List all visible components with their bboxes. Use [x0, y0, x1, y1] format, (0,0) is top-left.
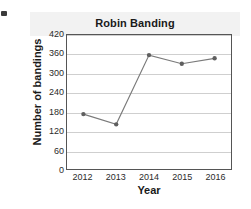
x-tick-label: 2012	[73, 172, 93, 182]
y-tick-label: 180	[49, 107, 64, 117]
x-tick-label: 2014	[139, 172, 159, 182]
y-tick-label: 0	[59, 165, 64, 175]
x-axis-title: Year	[66, 184, 232, 196]
scan-artifact-mark	[1, 11, 7, 16]
series-line-chart	[67, 35, 231, 169]
y-tick-label: 120	[49, 126, 64, 136]
plot-area	[66, 34, 232, 170]
chart-card: Robin Banding Number of bandings 0601201…	[16, 8, 240, 198]
x-tick-label: 2013	[106, 172, 126, 182]
y-tick-label: 360	[49, 48, 64, 58]
x-tick-label: 2015	[172, 172, 192, 182]
data-point-marker	[81, 112, 85, 116]
data-point-marker	[180, 62, 184, 66]
x-tick-label: 2016	[205, 172, 225, 182]
data-point-marker	[147, 53, 151, 57]
data-point-marker	[212, 56, 216, 60]
series-line	[83, 55, 214, 124]
y-axis-tick-labels: 060120180240300360420	[38, 34, 64, 170]
chart-title: Robin Banding	[30, 17, 240, 29]
y-tick-label: 60	[54, 146, 64, 156]
y-tick-label: 240	[49, 87, 64, 97]
data-point-marker	[114, 122, 118, 126]
y-tick-label: 300	[49, 68, 64, 78]
y-tick-label: 420	[49, 29, 64, 39]
